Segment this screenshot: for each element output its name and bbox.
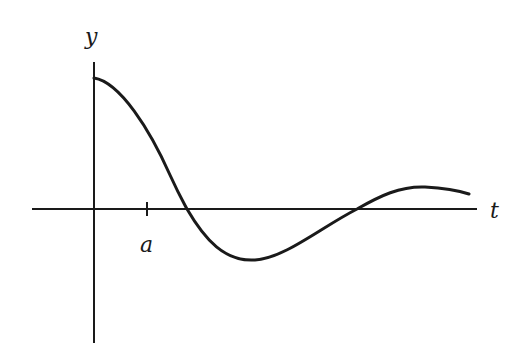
tick-a-label: a	[140, 234, 153, 256]
y-axis-label: y	[85, 26, 97, 48]
t-axis-label: t	[490, 200, 499, 222]
diagram-canvas	[0, 0, 520, 363]
